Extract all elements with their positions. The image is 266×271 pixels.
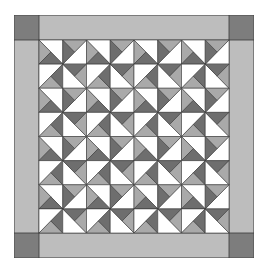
corner-square [14,233,39,258]
quilt-pattern [14,15,254,258]
corner-square [14,15,39,40]
corner-square [229,15,254,40]
corner-square [229,233,254,258]
quilt-image [14,15,254,258]
